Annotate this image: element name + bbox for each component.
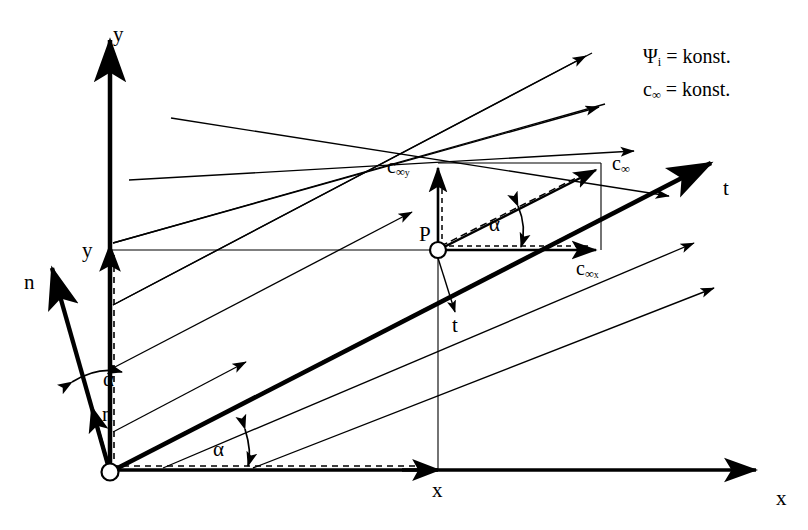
c-inf-label: c∞: [612, 152, 630, 177]
diagram-canvas: Ψi = konst. c∞ = konst. y y x x t t n n …: [0, 0, 808, 530]
axis-label-y-projection: y: [82, 238, 93, 263]
c-inf-y-label: c∞y: [387, 155, 410, 180]
legend-cinf-rest: = konst.: [661, 78, 731, 100]
streamline: [163, 243, 694, 468]
c-inf-y-symbol: c: [387, 155, 396, 177]
axis-label-t-far: t: [723, 176, 729, 201]
c-inf-y-subscript2: y: [405, 167, 410, 178]
legend-psi-symbol: Ψ: [643, 45, 658, 67]
c-inf-vector: [438, 170, 596, 250]
axis-label-x-right: x: [776, 486, 787, 511]
axis-label-t-near: t: [452, 313, 458, 338]
streamline: [113, 212, 412, 368]
point-p-label: P: [419, 222, 431, 247]
legend-line-psi: Ψi = konst.: [643, 45, 731, 70]
legend-cinf-subscript: ∞: [652, 88, 661, 102]
axis-label-n-near: n: [102, 402, 113, 427]
streamline-group: [113, 56, 714, 468]
alpha-point-label: α: [489, 212, 500, 237]
alpha-point-arc: [518, 206, 523, 247]
legend-psi-rest: = konst.: [661, 45, 731, 67]
t-axis: [110, 163, 711, 472]
legend-line-cinf: c∞ = konst.: [643, 78, 730, 103]
c-inf-x-symbol: c: [576, 257, 585, 279]
axis-label-x-projection: x: [432, 478, 443, 503]
streamline: [171, 118, 669, 196]
streamline-segment: [113, 53, 592, 305]
c-inf-x-subscript: ∞: [585, 267, 594, 281]
c-inf-subscript: ∞: [621, 162, 630, 176]
streamline-segment: [113, 104, 605, 243]
point-p-marker: [430, 242, 446, 258]
streamline: [113, 362, 246, 432]
streamline-through-box: [113, 53, 605, 305]
origin-marker: [102, 464, 119, 481]
legend-cinf-symbol: c: [643, 78, 652, 100]
c-inf-y-subscript: ∞: [396, 165, 405, 179]
c-inf-vector-dash: [441, 172, 588, 246]
axis-label-y-top: y: [113, 22, 124, 47]
axis-label-n-far: n: [24, 270, 35, 295]
streamline: [253, 288, 714, 468]
alpha-origin-label: α: [213, 437, 224, 462]
streamline: [129, 151, 634, 180]
c-inf-x-label: c∞x: [576, 257, 599, 282]
c-inf-x-subscript2: x: [594, 269, 599, 280]
alpha-normal-label: α: [103, 367, 114, 392]
alpha-origin-arc: [245, 429, 249, 466]
c-inf-symbol: c: [612, 152, 621, 174]
